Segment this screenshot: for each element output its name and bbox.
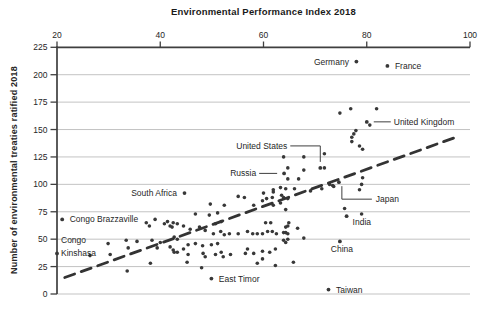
scatter-point	[155, 246, 159, 250]
scatter-point	[320, 187, 324, 191]
scatter-point	[135, 240, 139, 244]
scatter-point-germany	[355, 60, 359, 64]
scatter-point	[216, 211, 220, 215]
scatter-point	[292, 260, 296, 264]
scatter-point	[228, 232, 232, 236]
scatter-point	[203, 229, 207, 233]
country-label-congo-kinshasa: Congo	[61, 235, 86, 245]
scatter-point	[284, 208, 288, 212]
scatter-point	[302, 168, 306, 172]
x-tick-label: 80	[362, 30, 372, 40]
scatter-point-russia	[282, 172, 286, 176]
y-tick-label: 175	[33, 97, 47, 107]
scatter-point	[182, 247, 186, 251]
scatter-point-taiwan	[327, 288, 331, 292]
scatter-point	[236, 232, 240, 236]
scatter-point	[106, 242, 110, 246]
country-label-japan: Japan	[376, 194, 399, 204]
scatter-chart: 204060801000255075100125150175200225Germ…	[0, 0, 491, 311]
country-label-congo-kinshasa: Kinshasa	[61, 248, 96, 258]
scatter-point	[255, 262, 259, 266]
scatter-point-united-kingdom	[365, 120, 369, 124]
scatter-point	[185, 260, 189, 264]
scatter-point	[171, 221, 175, 225]
scatter-point	[323, 166, 327, 170]
y-axis-title: Number of environmental treaties ratifie…	[9, 66, 19, 274]
scatter-point	[350, 135, 354, 139]
scatter-point	[274, 264, 278, 268]
scatter-point-china	[338, 240, 342, 244]
plot-area: 204060801000255075100125150175200225Germ…	[0, 0, 491, 311]
scatter-point	[272, 190, 276, 194]
scatter-point-south-africa	[183, 191, 187, 195]
scatter-point	[261, 249, 265, 253]
y-tick-label: 50	[38, 234, 48, 244]
scatter-point	[284, 187, 288, 191]
scatter-point	[266, 230, 270, 234]
scatter-point	[170, 225, 174, 229]
scatter-point	[271, 230, 275, 234]
scatter-point	[286, 166, 290, 170]
scatter-point	[210, 243, 214, 247]
scatter-point	[219, 230, 223, 234]
scatter-point	[282, 231, 286, 235]
scatter-point	[166, 220, 170, 224]
gridlines	[57, 75, 470, 294]
scatter-point	[358, 144, 362, 148]
scatter-point	[200, 266, 204, 270]
scatter-point	[349, 107, 353, 111]
scatter-point	[368, 123, 372, 127]
scatter-point	[126, 246, 130, 250]
scatter-point	[201, 244, 205, 248]
y-tick-labels: 0255075100125150175200225	[33, 42, 47, 299]
scatter-point	[302, 236, 306, 240]
scatter-point	[350, 140, 354, 144]
scatter-point	[194, 242, 198, 246]
scatter-point	[286, 224, 290, 228]
scatter-point-france	[386, 64, 390, 68]
scatter-point	[176, 222, 180, 226]
scatter-point	[287, 221, 291, 225]
scatter-point	[148, 224, 152, 228]
scatter-point	[293, 187, 297, 191]
country-label-china: China	[331, 244, 353, 254]
scatter-point	[150, 239, 154, 243]
scatter-point	[275, 232, 279, 236]
scatter-point	[297, 177, 301, 181]
scatter-point	[296, 226, 300, 230]
scatter-point	[343, 207, 347, 211]
scatter-point	[176, 251, 180, 255]
scatter-point	[149, 262, 153, 266]
scatter-point	[168, 245, 172, 249]
scatter-point	[182, 224, 186, 228]
scatter-point	[286, 232, 290, 236]
scatter-point	[286, 177, 290, 181]
scatter-point	[286, 237, 290, 241]
scatter-point	[186, 253, 190, 257]
chart-title: Environmental Performance Index 2018	[57, 6, 470, 17]
scatter-point	[338, 111, 342, 115]
scatter-point	[361, 148, 365, 152]
scatter-point-east-timor	[210, 277, 214, 281]
scatter-point	[236, 195, 240, 199]
trend-line	[65, 137, 456, 277]
scatter-point	[354, 129, 358, 133]
scatter-point	[188, 228, 192, 232]
scatter-point	[246, 230, 250, 234]
scatter-point	[360, 212, 364, 216]
scatter-point	[176, 237, 180, 241]
scatter-point-india	[345, 214, 349, 218]
scatter-point	[216, 242, 220, 246]
scatter-point	[209, 202, 213, 206]
scatter-point	[282, 155, 286, 159]
scatter-point	[125, 269, 129, 273]
scatter-point	[244, 252, 248, 256]
scatter-point	[279, 186, 283, 190]
scatter-point	[282, 239, 286, 243]
scatter-point	[124, 239, 128, 243]
scatter-point	[219, 251, 223, 255]
scatter-point	[261, 232, 265, 236]
scatter-point	[223, 233, 227, 237]
scatter-point-congo-kinshasa	[55, 252, 59, 256]
country-label-united-states: United States	[236, 141, 287, 151]
